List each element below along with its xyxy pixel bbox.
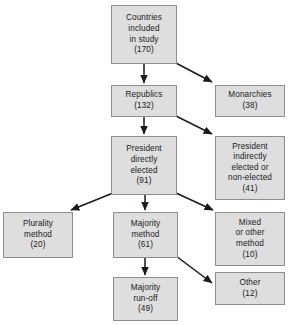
node-president-direct-line-1: directly [131, 155, 158, 166]
node-majority-runoff-line-0: Majority [131, 283, 160, 294]
node-president-direct-count: (91) [137, 176, 152, 187]
node-plurality-method[interactable]: Plurality method (20) [3, 212, 73, 258]
edge-countries-to-monarchies [174, 62, 212, 82]
edge-president-direct-to-mixed [176, 193, 213, 210]
node-president-directly-elected[interactable]: President directly elected (91) [111, 136, 177, 195]
node-countries-count: (170) [134, 45, 154, 56]
node-countries-line-0: Countries [126, 13, 162, 24]
node-majority-method[interactable]: Majority method (61) [113, 212, 178, 258]
node-mixed-line-1: or other [235, 228, 264, 239]
node-republics-line-0: Republics [126, 90, 163, 101]
node-other-count: (12) [243, 289, 258, 300]
node-president-indirect-line-0: President [232, 142, 268, 153]
node-countries-line-2: in study [129, 35, 158, 46]
node-plurality-line-0: Plurality [23, 219, 53, 230]
node-mixed-or-other-method[interactable]: Mixed or other method (10) [215, 212, 285, 266]
node-president-indirect-line-1: indirectly [233, 152, 266, 163]
flowchart-diagram: Countries included in study (170) Republ… [0, 0, 295, 325]
node-mixed-line-2: method [236, 239, 264, 250]
node-republics[interactable]: Republics (132) [111, 85, 177, 117]
node-mixed-line-0: Mixed [239, 218, 261, 229]
node-other[interactable]: Other (12) [215, 272, 285, 305]
edge-president-direct-to-plurality [71, 193, 113, 210]
node-countries-line-1: included [128, 24, 159, 35]
node-president-direct-line-0: President [126, 144, 162, 155]
node-majority-count: (61) [138, 240, 153, 251]
node-mixed-count: (10) [243, 250, 258, 261]
node-majority-runoff[interactable]: Majority run-off (49) [113, 277, 178, 321]
node-president-indirect-line-3: non-elected [228, 173, 272, 184]
node-majority-runoff-line-1: run-off [133, 294, 157, 305]
edge-republics-to-president-indirect [174, 115, 212, 134]
node-president-indirect-line-2: elected or [232, 163, 269, 174]
node-monarchies-count: (38) [243, 101, 258, 112]
node-majority-runoff-count: (49) [138, 304, 153, 315]
node-monarchies-line-0: Monarchies [228, 90, 271, 101]
node-majority-line-0: Majority [131, 219, 160, 230]
node-plurality-line-1: method [24, 230, 52, 241]
node-other-line-0: Other [240, 278, 261, 289]
edge-majority-to-other [176, 256, 212, 283]
node-plurality-count: (20) [31, 240, 46, 251]
node-majority-line-1: method [132, 230, 160, 241]
node-countries[interactable]: Countries included in study (170) [111, 5, 177, 64]
node-president-direct-line-2: elected [130, 166, 157, 177]
node-president-indirectly-elected[interactable]: President indirectly elected or non-elec… [215, 136, 285, 200]
node-monarchies[interactable]: Monarchies (38) [215, 85, 285, 117]
node-president-indirect-count: (41) [243, 184, 258, 195]
node-republics-count: (132) [134, 101, 154, 112]
